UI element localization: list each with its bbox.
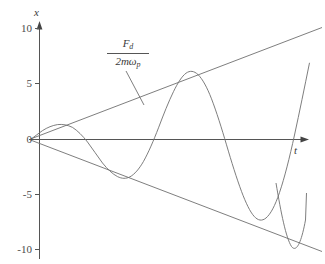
y-axis-label: x xyxy=(34,7,39,18)
y-tick-label-10: 10 xyxy=(6,23,32,34)
annotation-leader-line xyxy=(126,71,144,105)
y-tick-label-5: 5 xyxy=(6,78,32,89)
y-tick-label-0: 0 xyxy=(6,134,32,145)
annotation-denominator-omega: ω xyxy=(129,55,137,67)
fraction-bar xyxy=(107,53,149,54)
resonant-oscillation-curve xyxy=(31,63,310,220)
resonance-growth-plot: 10 5 0 -5 -10 x t Fd 2mωp xyxy=(0,0,325,264)
y-axis-ticks xyxy=(35,29,40,250)
y-tick-label-minus-10: -10 xyxy=(0,244,32,255)
annotation-numerator-subscript: d xyxy=(129,42,133,51)
oscillation-tail xyxy=(276,183,307,248)
annotation-denominator-subscript: p xyxy=(137,60,141,69)
envelope-amplitude-annotation: Fd 2mωp xyxy=(101,38,155,69)
annotation-denominator-mass: 2m xyxy=(115,55,128,67)
plot-canvas xyxy=(0,0,325,264)
annotation-denominator: 2mωp xyxy=(101,55,155,69)
y-tick-label-minus-5: -5 xyxy=(4,189,32,200)
annotation-numerator: Fd xyxy=(101,38,155,52)
x-axis xyxy=(29,137,309,143)
upper-envelope-line xyxy=(31,28,323,140)
x-axis-label: t xyxy=(294,145,297,156)
